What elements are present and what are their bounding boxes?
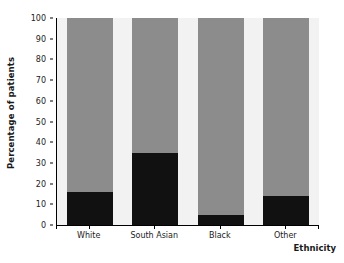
y-axis-tick-mark	[50, 142, 53, 143]
bar-segment-lower	[132, 153, 178, 225]
bar-south-asian	[132, 18, 178, 225]
y-axis-tick-mark	[50, 183, 53, 184]
y-axis-tick-mark	[50, 121, 53, 122]
y-axis-title: Percentage of patients	[0, 0, 22, 225]
bar-segment-upper	[263, 18, 309, 225]
chart-figure: Percentage of patients 01020304050607080…	[0, 0, 344, 263]
x-axis-tick-mark	[89, 226, 90, 229]
x-axis-tick-mark	[220, 226, 221, 229]
y-axis-tick-mark	[50, 204, 53, 205]
bar-segment-lower	[198, 215, 244, 225]
bar-segment-lower	[67, 192, 113, 225]
x-axis-tick-mark	[285, 226, 286, 229]
y-axis-tick-label: 80	[36, 55, 46, 64]
y-axis-tick-mark	[50, 59, 53, 60]
bar-segment-lower	[263, 196, 309, 225]
y-axis-tick-label: 90	[36, 34, 46, 43]
x-axis-ticks: WhiteSouth AsianBlackOther	[56, 226, 319, 246]
y-axis-tick-mark	[50, 38, 53, 39]
x-axis-tick-mark	[154, 226, 155, 229]
bar-white	[67, 18, 113, 225]
y-axis-tick-mark	[50, 18, 53, 19]
y-axis-tick-label: 10	[36, 200, 46, 209]
x-axis-tick-label: South Asian	[130, 231, 178, 240]
x-axis-boundary-tick	[56, 226, 57, 229]
y-axis-tick-label: 30	[36, 158, 46, 167]
y-axis-tick-label: 40	[36, 138, 46, 147]
bar-other	[263, 18, 309, 225]
x-axis-title: Ethnicity	[294, 243, 336, 253]
y-axis-tick-label: 20	[36, 179, 46, 188]
bar-black	[198, 18, 244, 225]
y-axis-tick-mark	[50, 162, 53, 163]
y-axis-tick-mark	[50, 100, 53, 101]
y-axis-tick-label: 100	[31, 14, 46, 23]
y-axis-tick-mark	[50, 225, 53, 226]
y-axis-tick-label: 50	[36, 117, 46, 126]
bar-segment-upper	[198, 18, 244, 225]
x-axis-tick-label: Black	[209, 231, 231, 240]
x-axis-tick-label: Other	[274, 231, 297, 240]
y-axis-tick-mark	[50, 80, 53, 81]
x-axis-tick-label: White	[77, 231, 100, 240]
x-axis-boundary-tick	[318, 226, 319, 229]
plot-area	[56, 18, 319, 226]
y-axis-title-text: Percentage of patients	[6, 56, 16, 168]
y-axis-tick-label: 70	[36, 76, 46, 85]
y-axis-tick-label: 0	[41, 221, 46, 230]
y-axis-ticks: 0102030405060708090100	[22, 18, 50, 225]
y-axis-tick-label: 60	[36, 96, 46, 105]
